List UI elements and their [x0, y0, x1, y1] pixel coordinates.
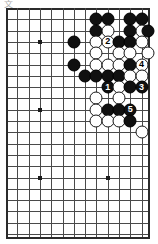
grid-line-horizontal: [6, 234, 148, 235]
grid-line-horizontal: [6, 189, 148, 190]
stone-move-number: 3: [136, 82, 147, 93]
grid-line-vertical: [6, 8, 8, 237]
grid-line-vertical: [51, 8, 52, 237]
stone-black[interactable]: [124, 115, 137, 128]
grid-line-horizontal: [6, 211, 148, 212]
board-bottom-edge: [6, 237, 148, 239]
grid-line-horizontal: [6, 200, 148, 201]
go-board[interactable]: 24135: [0, 0, 158, 244]
grid-line-horizontal: [6, 98, 148, 99]
grid-line-vertical: [63, 8, 64, 237]
grid-line-horizontal: [6, 155, 148, 156]
star-point: [106, 176, 110, 180]
board-right-edge: [148, 8, 150, 239]
grid-line-horizontal: [6, 166, 148, 167]
star-point: [38, 108, 42, 112]
grid-line-vertical: [29, 8, 30, 237]
grid-line-vertical: [85, 8, 86, 237]
grid-line-horizontal: [6, 178, 148, 179]
grid-line-horizontal: [6, 144, 148, 145]
stone-black[interactable]: [67, 35, 80, 48]
stone-move-3[interactable]: 3: [135, 81, 148, 94]
grid-line-horizontal: [6, 132, 148, 133]
stone-white[interactable]: [135, 126, 148, 139]
stone-black[interactable]: [67, 58, 80, 71]
grid-line-horizontal: [6, 223, 148, 224]
grid-line-horizontal: [6, 8, 148, 10]
star-point: [38, 40, 42, 44]
star-point: [38, 176, 42, 180]
grid-line-vertical: [17, 8, 18, 237]
go-diagram-screen: 文 24135: [0, 0, 158, 244]
